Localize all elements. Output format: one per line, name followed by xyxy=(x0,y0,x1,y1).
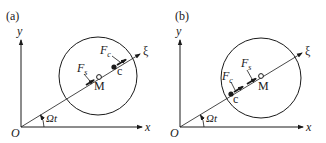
point-c-label: c xyxy=(233,92,238,106)
origin-label: O xyxy=(170,126,179,140)
y-axis-label: y xyxy=(16,24,23,38)
point-c xyxy=(111,64,116,69)
angle-label: Ωt xyxy=(46,112,58,124)
y-axis-label: y xyxy=(175,24,182,38)
force-s-label: Fs xyxy=(76,61,87,77)
panel-a: (a) y x O ξ Ωt M c Fs Fc xyxy=(6,9,151,140)
point-m-label: M xyxy=(258,79,269,93)
point-m-label: M xyxy=(94,79,105,93)
xi-axis-label: ξ xyxy=(305,44,311,58)
force-c-label: Fc xyxy=(221,69,233,85)
x-axis-label: x xyxy=(305,120,312,134)
force-s-label: Fs xyxy=(240,56,251,72)
diagram-canvas: (a) y x O ξ Ωt M c Fs Fc (b) xyxy=(0,0,326,143)
origin-label: O xyxy=(11,126,20,140)
x-axis-label: x xyxy=(144,120,151,134)
point-c-label: c xyxy=(117,64,122,78)
angle-arc xyxy=(201,115,205,127)
force-c-leader xyxy=(112,56,120,62)
angle-label: Ωt xyxy=(206,112,218,124)
panel-b-label: (b) xyxy=(175,9,189,23)
angle-arc xyxy=(41,115,45,127)
point-m xyxy=(259,74,264,79)
force-c-label: Fc xyxy=(99,43,111,59)
panel-a-label: (a) xyxy=(6,9,19,23)
panel-b: (b) y x O ξ Ωt M c Fc Fs xyxy=(170,9,312,140)
xi-axis-label: ξ xyxy=(143,44,149,58)
